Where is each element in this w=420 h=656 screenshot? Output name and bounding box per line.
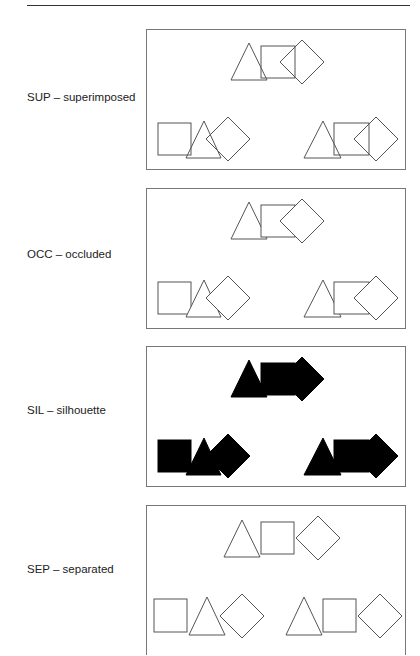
label-sup: SUP – superimposed bbox=[27, 90, 135, 104]
sep-shapes bbox=[147, 506, 407, 656]
sup-shapes bbox=[147, 30, 407, 171]
diamond-shape bbox=[220, 594, 264, 638]
panel-separated bbox=[146, 505, 406, 655]
panel-superimposed bbox=[146, 29, 406, 170]
square-shape bbox=[158, 440, 191, 472]
label-sil: SIL – silhouette bbox=[27, 403, 106, 417]
triangle-shape bbox=[224, 520, 260, 557]
triangle-shape bbox=[231, 43, 267, 80]
label-sep: SEP – separated bbox=[27, 562, 114, 576]
diamond-shape bbox=[358, 594, 402, 638]
triangle-shape bbox=[304, 121, 341, 158]
header-rule bbox=[27, 5, 410, 6]
square-shape bbox=[334, 123, 369, 155]
panel-silhouette bbox=[146, 346, 406, 487]
square-shape bbox=[158, 123, 191, 155]
diamond-shape bbox=[296, 516, 340, 560]
diamond-shape bbox=[354, 117, 398, 161]
square-shape bbox=[154, 599, 187, 632]
square-shape bbox=[323, 599, 356, 632]
square-shape bbox=[261, 46, 295, 78]
occ-shapes bbox=[147, 189, 407, 330]
label-occ: OCC – occluded bbox=[27, 247, 111, 261]
square-shape bbox=[158, 282, 191, 314]
square-shape bbox=[261, 522, 294, 554]
diamond-shape bbox=[280, 40, 324, 84]
sil-shapes bbox=[147, 347, 407, 488]
triangle-shape bbox=[286, 597, 322, 635]
panel-occluded bbox=[146, 188, 406, 329]
